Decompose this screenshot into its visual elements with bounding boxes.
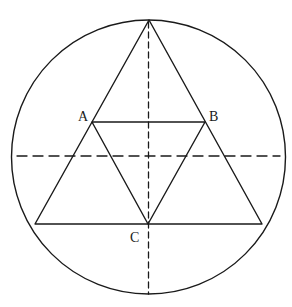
label-point-a: A [78,109,89,124]
label-point-b: B [209,109,218,124]
label-point-c: C [130,230,139,245]
geometry-diagram: A B C [0,0,292,307]
